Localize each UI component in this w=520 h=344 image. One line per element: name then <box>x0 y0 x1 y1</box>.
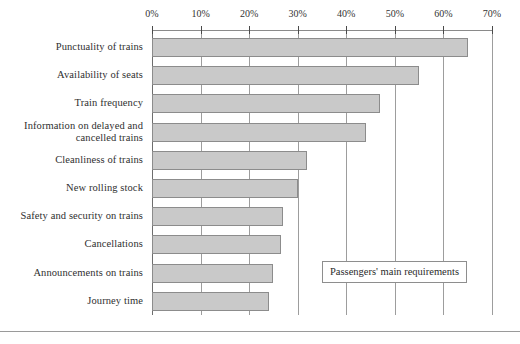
legend-label: Passengers' main requirements <box>322 261 467 283</box>
category-label: Cleanliness of trains <box>0 154 143 166</box>
bar <box>152 123 366 142</box>
tick-label: 30% <box>289 8 307 19</box>
tick-label: 0% <box>145 8 158 19</box>
category-label: Safety and security on trains <box>0 210 143 222</box>
category-label: Availability of seats <box>0 69 143 81</box>
bar-chart: Punctuality of trainsAvailability of sea… <box>0 0 520 344</box>
gridline-70 <box>492 30 493 315</box>
bar <box>152 235 281 254</box>
tick-label: 50% <box>386 8 404 19</box>
tick-label: 60% <box>434 8 452 19</box>
category-axis-labels: Punctuality of trainsAvailability of sea… <box>0 0 148 344</box>
top-axis-line <box>152 30 492 31</box>
bar <box>152 94 380 113</box>
category-label: Journey time <box>0 295 143 307</box>
bar <box>152 292 269 311</box>
bar <box>152 151 307 170</box>
category-label: Information on delayed and cancelled tra… <box>0 120 143 144</box>
tick-mark <box>201 26 202 34</box>
tick-label: 20% <box>240 8 258 19</box>
bar <box>152 66 419 85</box>
tick-mark <box>249 26 250 34</box>
tick-label: 70% <box>483 8 501 19</box>
tick-mark <box>443 26 444 34</box>
category-label: New rolling stock <box>0 182 143 194</box>
footer-divider <box>0 331 520 332</box>
tick-label: 10% <box>191 8 209 19</box>
tick-mark <box>395 26 396 34</box>
tick-mark <box>492 26 493 34</box>
bar <box>152 38 468 57</box>
tick-mark <box>346 26 347 34</box>
bar <box>152 179 298 198</box>
bar <box>152 207 283 226</box>
category-label: Train frequency <box>0 97 143 109</box>
bar <box>152 264 273 283</box>
tick-mark <box>152 26 153 34</box>
tick-mark <box>298 26 299 34</box>
category-label: Announcements on trains <box>0 267 143 279</box>
tick-label: 40% <box>337 8 355 19</box>
category-label: Cancellations <box>0 238 143 250</box>
category-label: Punctuality of trains <box>0 41 143 53</box>
